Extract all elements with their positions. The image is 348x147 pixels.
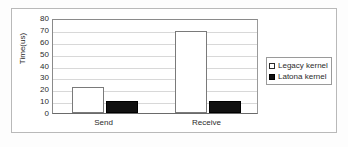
bar-send-legacy (72, 87, 104, 113)
y-axis-tick-label: 30 (29, 74, 49, 82)
legend-label: Legacy kernel (278, 61, 328, 70)
x-axis-tick-label: Receive (192, 118, 221, 127)
y-axis-tick-label: 60 (29, 39, 49, 47)
chart-figure: Time(us) 01020304050607080 SendReceive L… (0, 0, 348, 147)
y-axis-tick-labels: 01020304050607080 (28, 19, 49, 114)
legend-swatch-icon (269, 63, 275, 69)
gridline (53, 44, 257, 45)
gridline (53, 68, 257, 69)
y-axis-tick-label: 80 (29, 15, 49, 23)
bar-receive-legacy (175, 31, 207, 113)
x-axis-tick-label: Send (94, 118, 113, 127)
bar-send-latona (106, 101, 138, 113)
gridline (53, 32, 257, 33)
bar-receive-latona (209, 101, 241, 113)
legend-label: Latona kernel (278, 72, 326, 81)
legend-entry: Legacy kernel (269, 60, 328, 71)
y-axis-tick-label: 20 (29, 86, 49, 94)
legend-entry: Latona kernel (269, 71, 328, 82)
plot-area (52, 19, 258, 114)
x-axis-tick-labels: SendReceive (52, 118, 258, 132)
y-axis-tick-label: 10 (29, 98, 49, 106)
y-axis-tick-label: 50 (29, 51, 49, 59)
gridline (53, 79, 257, 80)
chart-legend: Legacy kernelLatona kernel (266, 57, 332, 85)
y-axis-tick-label: 40 (29, 63, 49, 71)
gridline (53, 56, 257, 57)
y-axis-tick-label: 70 (29, 27, 49, 35)
y-axis-title: Time(us) (18, 19, 27, 79)
legend-swatch-icon (269, 74, 275, 80)
y-axis-tick-label: 0 (29, 110, 49, 118)
